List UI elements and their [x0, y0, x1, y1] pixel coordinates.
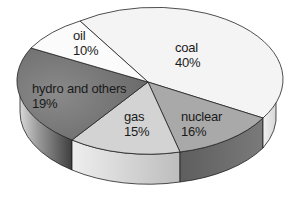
label-hydro: hydro and others 19% — [32, 81, 126, 111]
label-nuclear-pct: 16% — [181, 124, 222, 139]
label-oil-pct: 10% — [73, 43, 98, 58]
label-hydro-name: hydro and others — [32, 81, 126, 96]
label-coal-name: coal — [175, 40, 200, 55]
label-gas-name: gas — [124, 109, 149, 124]
label-coal: coal 40% — [175, 40, 200, 70]
label-gas: gas 15% — [124, 109, 149, 139]
label-coal-pct: 40% — [175, 55, 200, 70]
label-nuclear-name: nuclear — [181, 109, 222, 124]
label-nuclear: nuclear 16% — [181, 109, 222, 139]
label-oil-name: oil — [73, 28, 98, 43]
label-gas-pct: 15% — [124, 124, 149, 139]
label-hydro-pct: 19% — [32, 96, 126, 111]
label-oil: oil 10% — [73, 28, 98, 58]
